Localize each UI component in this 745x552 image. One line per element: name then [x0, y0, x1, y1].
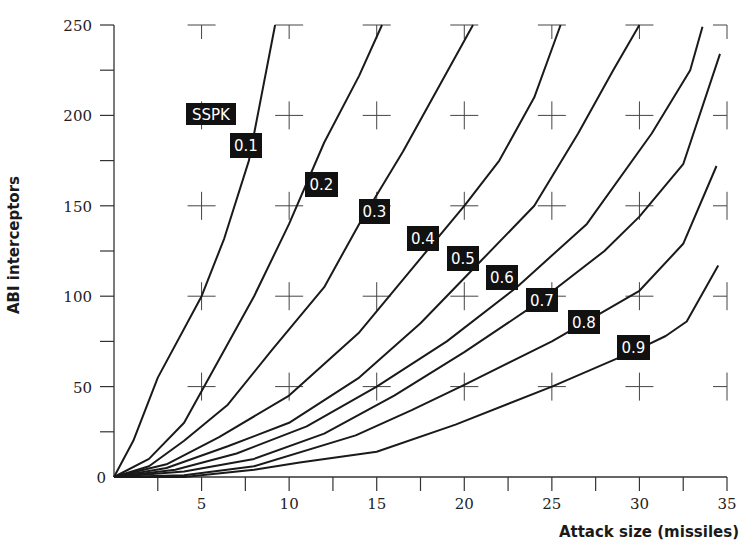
curve-label-0.7: 0.7	[526, 288, 558, 312]
axes: 0501001502002505101520253035	[63, 17, 736, 513]
curve-label-0.5: 0.5	[447, 246, 479, 271]
x-tick-label: 35	[717, 495, 736, 513]
x-tick-label: 10	[280, 495, 299, 513]
y-axis-title: ABI interceptors	[2, 25, 26, 465]
x-tick-label: 30	[630, 495, 649, 513]
x-tick-label: 25	[542, 495, 561, 513]
sspk-curve-0.1	[114, 25, 275, 477]
label-text: 0.6	[490, 269, 514, 287]
curve-labels: SSPK0.10.20.30.40.50.60.70.80.9	[186, 103, 650, 360]
label-text: 0.9	[622, 339, 646, 357]
label-text: 0.2	[310, 176, 334, 194]
curve-label-0.8: 0.8	[568, 310, 600, 334]
curve-label-0.1: 0.1	[230, 133, 262, 158]
sspk-curve-0.5	[114, 25, 639, 477]
curve-label-0.9: 0.9	[617, 335, 650, 360]
label-text: 0.7	[530, 292, 554, 310]
label-text: SSPK	[192, 106, 231, 124]
y-tick-label: 50	[73, 379, 92, 397]
label-text: 0.1	[234, 137, 258, 155]
label-text: 0.4	[411, 230, 435, 248]
legend-title-sspk: SSPK	[186, 103, 236, 125]
curve-label-0.3: 0.3	[359, 199, 390, 224]
y-tick-label: 100	[63, 288, 92, 306]
y-tick-label: 0	[96, 469, 106, 487]
label-text: 0.3	[363, 203, 387, 221]
x-axis-title: Attack size (missiles)	[559, 523, 739, 541]
sspk-interceptor-chart: 0501001502002505101520253035 SSPK0.10.20…	[0, 0, 745, 552]
curve-label-0.6: 0.6	[486, 265, 518, 290]
sspk-curve-0.8	[114, 166, 717, 477]
sspk-curve-0.6	[114, 27, 703, 477]
label-text: 0.8	[572, 314, 596, 332]
x-tick-label: 5	[197, 495, 207, 513]
curve-label-0.2: 0.2	[305, 172, 338, 197]
curve-label-0.4: 0.4	[407, 226, 439, 251]
y-tick-label: 200	[63, 107, 92, 125]
x-tick-label: 20	[455, 495, 474, 513]
x-tick-label: 15	[367, 495, 386, 513]
y-tick-label: 250	[63, 17, 92, 35]
sspk-curve-0.2	[114, 25, 382, 477]
y-tick-label: 150	[63, 198, 92, 216]
label-text: 0.5	[451, 250, 475, 268]
